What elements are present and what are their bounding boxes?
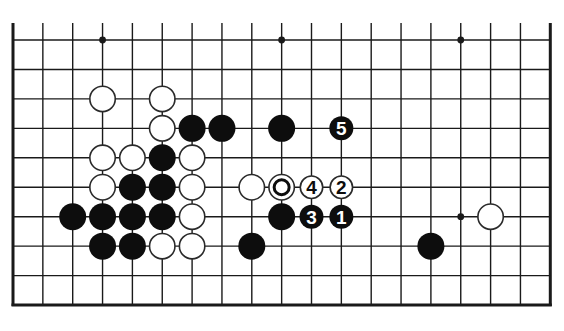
star-point-icon bbox=[99, 37, 106, 44]
white-stone bbox=[90, 145, 115, 170]
white-stone bbox=[150, 116, 175, 141]
white-stone bbox=[179, 175, 204, 200]
black-stone-move-3: 3 bbox=[300, 205, 324, 229]
star-point-icon bbox=[278, 37, 285, 44]
star-point-icon bbox=[457, 213, 464, 220]
white-stone-move-4: 4 bbox=[300, 176, 322, 198]
white-stone bbox=[90, 86, 115, 111]
black-stone-move-5: 5 bbox=[329, 116, 353, 140]
go-board-diagram: 54231 bbox=[0, 0, 564, 331]
black-stone bbox=[238, 233, 265, 260]
white-stone bbox=[179, 145, 204, 170]
star-point-icon bbox=[457, 37, 464, 44]
black-stone bbox=[149, 203, 176, 230]
black-stone bbox=[119, 203, 146, 230]
white-stone bbox=[150, 233, 175, 258]
black-stone bbox=[89, 233, 116, 260]
move-number-label: 3 bbox=[306, 207, 317, 228]
white-stone bbox=[90, 175, 115, 200]
white-stone bbox=[150, 86, 175, 111]
black-stone bbox=[119, 233, 146, 260]
white-stone bbox=[179, 204, 204, 229]
white-stone bbox=[239, 175, 264, 200]
white-stone bbox=[120, 145, 145, 170]
black-stone bbox=[417, 233, 444, 260]
black-stone bbox=[268, 203, 295, 230]
black-stone bbox=[89, 203, 116, 230]
white-stone bbox=[179, 233, 204, 258]
white-stone-marked bbox=[269, 175, 294, 200]
white-stone bbox=[478, 204, 503, 229]
black-stone bbox=[208, 115, 235, 142]
black-stone bbox=[268, 115, 295, 142]
black-stone bbox=[119, 174, 146, 201]
black-stone bbox=[179, 115, 206, 142]
black-stone-move-1: 1 bbox=[329, 205, 353, 229]
black-stone bbox=[59, 203, 86, 230]
black-stone bbox=[149, 174, 176, 201]
move-number-label: 4 bbox=[306, 177, 317, 198]
move-number-label: 5 bbox=[336, 118, 347, 139]
black-stone bbox=[149, 144, 176, 171]
white-stone-move-2: 2 bbox=[330, 176, 352, 198]
move-number-label: 1 bbox=[336, 207, 347, 228]
go-board: 54231 bbox=[0, 0, 564, 331]
move-number-label: 2 bbox=[336, 177, 347, 198]
